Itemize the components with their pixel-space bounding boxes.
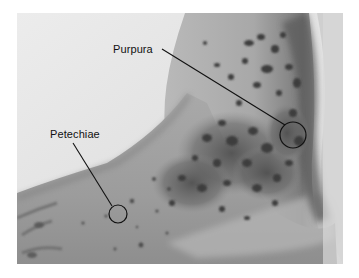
petechiae-label: Petechiae bbox=[50, 128, 100, 140]
clinical-figure: Purpura Petechiae bbox=[0, 0, 359, 278]
purpura-label: Purpura bbox=[113, 43, 153, 55]
